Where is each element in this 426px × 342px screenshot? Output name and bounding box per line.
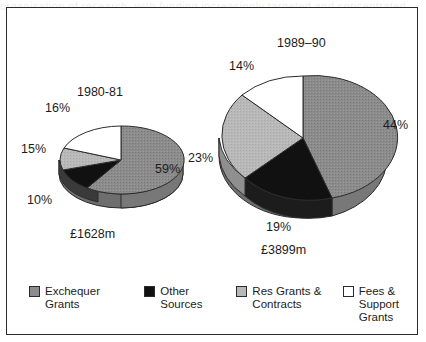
pie-left-pct-fees: 16%	[45, 102, 70, 115]
swatch-fees-support-grants	[343, 286, 354, 297]
swatch-exchequer-grants	[29, 286, 40, 297]
chart-legend: Exchequer Grants Other Sources Res Grant…	[29, 285, 409, 324]
pie-right-year-label: 1989–90	[277, 37, 326, 50]
pie-right-pct-other: 19%	[266, 221, 291, 234]
pie-left-pct-other: 10%	[27, 194, 52, 207]
pie-left-pct-res: 15%	[21, 143, 46, 156]
pie-right-pct-exch: 44%	[383, 119, 408, 132]
pie-right-pct-res: 23%	[188, 152, 213, 165]
pie-left-year-label: 1980-81	[77, 86, 123, 99]
pie-chart-1989-90	[212, 60, 402, 225]
legend-item-res-grants-contracts: Res Grants & Contracts	[236, 285, 332, 311]
pie-left-pct-exch: 59%	[155, 163, 180, 176]
pie-left-total-label: £1628m	[70, 228, 115, 241]
pie-right-total-label: £3899m	[261, 244, 306, 257]
legend-label-other-sources: Other Sources	[160, 285, 202, 311]
swatch-other-sources	[144, 286, 155, 297]
legend-item-fees-support-grants: Fees & Support Grants	[343, 285, 399, 324]
legend-label-fees-support-grants: Fees & Support Grants	[359, 285, 399, 324]
legend-label-exchequer-grants: Exchequer Grants	[45, 285, 100, 311]
legend-label-res-grants-contracts: Res Grants & Contracts	[252, 285, 321, 311]
legend-item-exchequer-grants: Exchequer Grants	[29, 285, 134, 311]
legend-item-other-sources: Other Sources	[144, 285, 226, 311]
plot-area: 1980-81 16% 15% 10% 59% £1628m	[7, 8, 417, 334]
figure-frame: 1980-81 16% 15% 10% 59% £1628m	[6, 7, 418, 335]
swatch-res-grants-contracts	[236, 286, 247, 297]
pie-right-pct-fees: 14%	[229, 60, 254, 73]
